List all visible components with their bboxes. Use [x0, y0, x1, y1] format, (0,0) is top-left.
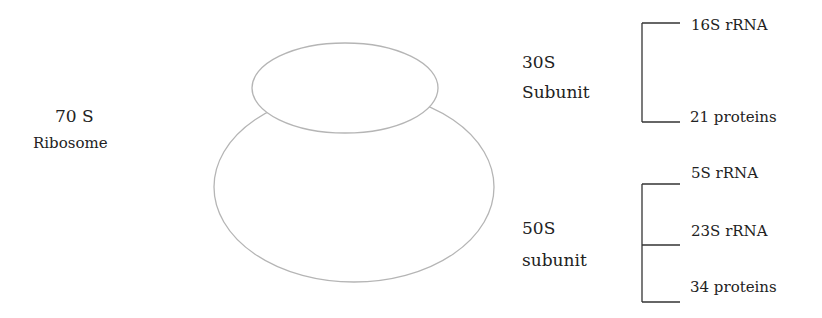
ribosome-diagram	[0, 0, 822, 318]
component-5s-rrna: 5S rRNA	[691, 166, 758, 181]
component-21-proteins: 21 proteins	[690, 110, 777, 125]
component-16s-rrna: 16S rRNA	[691, 18, 768, 33]
component-34-proteins: 34 proteins	[690, 280, 777, 295]
small-subunit-bracket	[642, 23, 680, 122]
ribosome-label-line1: 70 S	[55, 108, 94, 125]
small-subunit-shape	[252, 43, 438, 133]
large-subunit-label-line1: 50S	[522, 220, 555, 237]
small-subunit-label-line1: 30S	[522, 54, 555, 71]
large-subunit-label-line2: subunit	[522, 252, 587, 269]
large-subunit-bracket	[642, 184, 680, 302]
component-23s-rrna: 23S rRNA	[691, 224, 768, 239]
ribosome-label-line2: Ribosome	[33, 136, 108, 151]
small-subunit-label-line2: Subunit	[522, 84, 590, 101]
